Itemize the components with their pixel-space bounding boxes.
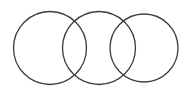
diagram-background <box>0 0 190 94</box>
figure-canvas: Three Overlapping Circles Three horizont… <box>0 0 190 94</box>
three-circles-diagram: Three Overlapping Circles Three horizont… <box>0 0 190 94</box>
